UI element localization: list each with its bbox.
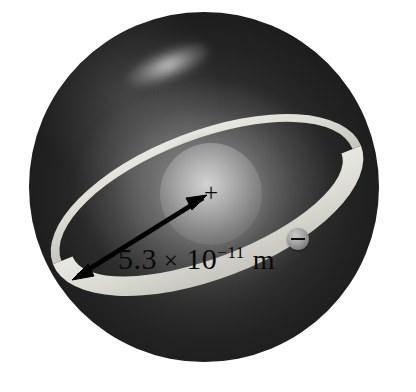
radius-arrow <box>0 0 416 392</box>
radius-base: 10 <box>186 242 217 275</box>
radius-unit: m <box>253 244 275 275</box>
radius-space-3 <box>245 242 253 275</box>
radius-measurement-label: 5.3 × 10−11 m <box>118 244 275 276</box>
radius-times-glyph: × <box>164 247 179 274</box>
figure-canvas: + 5.3 × 10−11 m <box>0 0 416 392</box>
radius-exponent: −11 <box>217 243 244 262</box>
radius-mantissa: 5.3 <box>118 242 157 275</box>
radius-multiplication-sign <box>157 247 164 274</box>
